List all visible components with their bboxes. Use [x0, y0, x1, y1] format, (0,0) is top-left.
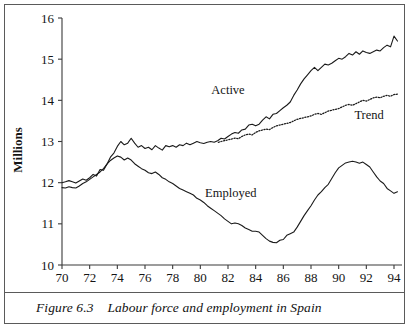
y-tick-label: 16: [41, 11, 55, 26]
figure-container: 1011121314151670727476788082848688909294…: [0, 0, 412, 331]
x-tick-label: 92: [360, 270, 373, 285]
series-label-active: Active: [211, 83, 245, 97]
x-tick-label: 90: [332, 270, 345, 285]
y-axis-title-text: Millions: [10, 127, 25, 173]
x-tick-label: 74: [111, 270, 125, 285]
series-line-active: [62, 36, 397, 183]
y-tick-label: 14: [41, 93, 55, 108]
chart-annotations: ActiveTrendEmployed: [205, 83, 384, 200]
y-tick-label: 13: [41, 134, 54, 149]
x-tick-label: 84: [249, 270, 263, 285]
x-tick-label: 80: [194, 270, 207, 285]
series-label-employed: Employed: [205, 186, 257, 200]
figure-caption: Figure 6.3 Labour force and employment i…: [36, 300, 396, 316]
y-tick-label: 11: [41, 216, 54, 231]
chart-axes: 1011121314151670727476788082848688909294: [41, 11, 402, 286]
chart-plot: 1011121314151670727476788082848688909294…: [0, 0, 412, 331]
x-tick-label: 86: [277, 270, 291, 285]
caption-divider: [5, 292, 404, 293]
x-tick-label: 72: [83, 270, 96, 285]
x-tick-label: 88: [305, 270, 318, 285]
x-tick-label: 70: [56, 270, 69, 285]
x-tick-label: 94: [388, 270, 402, 285]
y-axis-title: Millions: [10, 127, 25, 173]
y-tick-label: 10: [41, 258, 54, 273]
y-tick-label: 15: [41, 52, 54, 67]
y-tick-label: 12: [41, 175, 54, 190]
x-tick-label: 78: [166, 270, 179, 285]
chart-series: [62, 36, 397, 243]
series-label-trend: Trend: [354, 108, 384, 122]
x-tick-label: 76: [139, 270, 153, 285]
x-tick-label: 82: [222, 270, 235, 285]
